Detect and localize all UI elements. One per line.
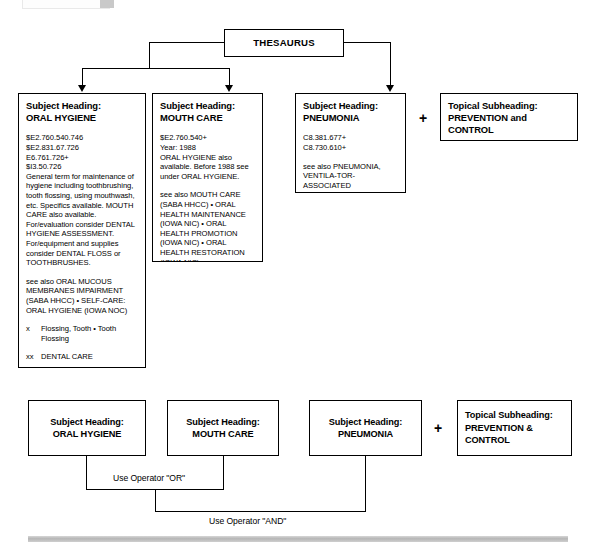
arrow-mouth-care	[225, 85, 233, 92]
connector-and-bus	[155, 511, 366, 512]
box-kind-label: Topical Subheading:	[465, 409, 553, 421]
code-list: $E2.760.540+ Year: 1988 ORAL HYGIENE als…	[160, 133, 256, 181]
box-term-label: PNEUMONIA	[338, 428, 393, 440]
box-term-label: ORAL HYGIENE	[53, 428, 122, 440]
box-kind-label: Subject Heading:	[303, 100, 399, 112]
query-box-mouth-care: Subject Heading: MOUTH CARE	[167, 400, 279, 456]
box-term-label: PNEUMONIA	[303, 112, 399, 124]
xref-tag: x	[26, 324, 41, 343]
arrow-pneumonia	[386, 85, 394, 92]
connector-bus-top	[82, 68, 230, 69]
subject-heading-box-mouth-care: Subject Heading: MOUTH CARE $E2.760.540+…	[152, 93, 263, 262]
plus-operator-top: +	[419, 111, 427, 125]
operator-and-label: Use Operator "AND"	[206, 516, 289, 526]
connector-thesaurus-left-stub	[149, 42, 225, 43]
code-line: $E2.831.67.726	[26, 143, 139, 153]
box-kind-label: Subject Heading:	[160, 100, 256, 112]
see-also-note: see also PNEUMONIA, VENTILA-TOR-ASSOCIAT…	[303, 162, 399, 191]
connector-and-drop-right	[365, 456, 366, 511]
code-line: $E2.760.540+	[160, 133, 256, 143]
box-kind-label: Topical Subheading:	[448, 100, 571, 112]
code-line: E6.761.726+	[26, 153, 139, 163]
ui-remnant-tab	[100, 0, 114, 8]
connector-or-drop-right	[223, 456, 224, 489]
xref-text: DENTAL CARE	[41, 352, 139, 362]
query-box-oral-hygiene: Subject Heading: ORAL HYGIENE	[28, 400, 146, 456]
topical-subheading-box-prevention-control: Topical Subheading: PREVENTION and CONTR…	[440, 93, 578, 141]
arrow-oral-hygiene	[78, 85, 86, 92]
cross-reference-xx: xx DENTAL CARE	[26, 352, 139, 362]
scope-note: General term for maintenance of hygiene …	[26, 172, 139, 268]
box-term-label: PREVENTION and CONTROL	[448, 112, 571, 136]
xref-text: Flossing, Tooth • Tooth Flossing	[41, 324, 139, 343]
connector-thesaurus-left-drop	[149, 42, 150, 68]
connector-or-drop-left	[86, 456, 87, 489]
subject-heading-box-pneumonia: Subject Heading: PNEUMONIA C8.381.677+ C…	[295, 93, 406, 193]
box-term-label: ORAL HYGIENE	[26, 112, 139, 124]
box-term-label: PREVENTION & CONTROL	[465, 422, 571, 447]
connector-drop-mouth-care	[229, 68, 230, 86]
code-line: $I3.50.726	[26, 162, 139, 172]
box-kind-label: Subject Heading:	[50, 416, 123, 428]
box-term-label: MOUTH CARE	[160, 112, 256, 124]
ui-remnant-strip	[22, 0, 110, 9]
code-list: $E2.760.540.746 $E2.831.67.726 E6.761.72…	[26, 133, 139, 267]
box-term-label: MOUTH CARE	[192, 428, 253, 440]
thesaurus-label: THESAURUS	[253, 37, 315, 49]
box-kind-label: Subject Heading:	[329, 416, 402, 428]
subject-heading-box-oral-hygiene: Subject Heading: ORAL HYGIENE $E2.760.54…	[18, 93, 146, 368]
see-also-note: see also ORAL MUCOUS MEMBRANES IMPAIRMEN…	[26, 277, 139, 315]
plus-operator-bottom: +	[434, 421, 442, 435]
query-box-pneumonia: Subject Heading: PNEUMONIA	[309, 400, 422, 456]
code-list: C8.381.677+ C8.730.610+	[303, 133, 399, 152]
query-box-prevention-control: Topical Subheading: PREVENTION & CONTROL	[457, 400, 572, 456]
xref-tag: xx	[26, 352, 41, 362]
footer-rule	[28, 536, 568, 542]
operator-or-label: Use Operator "OR"	[110, 473, 188, 483]
thesaurus-root-box: THESAURUS	[224, 29, 344, 57]
cross-reference-x: x Flossing, Tooth • Tooth Flossing	[26, 324, 139, 343]
code-line: $E2.760.540.746	[26, 133, 139, 143]
connector-and-drop-left	[155, 489, 156, 511]
connector-drop-pneumonia	[390, 42, 391, 86]
diagram-canvas: THESAURUS Subject Heading: ORAL HYGIENE …	[0, 0, 591, 551]
connector-drop-oral-hygiene	[82, 68, 83, 86]
box-kind-label: Subject Heading:	[26, 100, 139, 112]
see-also-note: see also MOUTH CARE (SABA HHCC) • ORAL H…	[160, 190, 256, 262]
code-line: C8.381.677+	[303, 133, 399, 143]
box-kind-label: Subject Heading:	[186, 416, 259, 428]
code-line: C8.730.610+	[303, 143, 399, 153]
year-line: Year: 1988	[160, 143, 256, 153]
connector-thesaurus-right-stub	[343, 42, 391, 43]
scope-note: ORAL HYGIENE also available. Before 1988…	[160, 153, 256, 182]
